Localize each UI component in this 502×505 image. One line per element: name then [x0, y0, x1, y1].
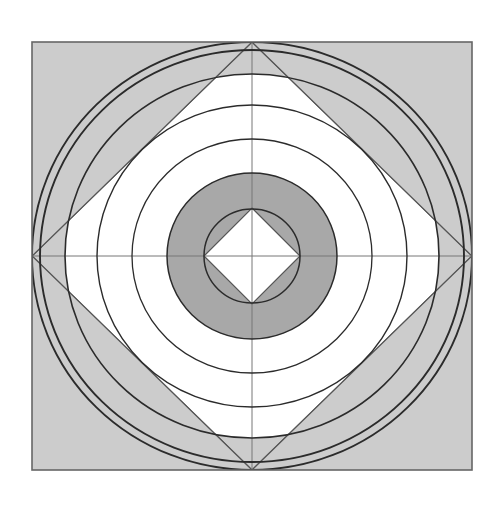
figure-root — [0, 0, 502, 505]
geometric-figure-svg — [0, 0, 502, 505]
